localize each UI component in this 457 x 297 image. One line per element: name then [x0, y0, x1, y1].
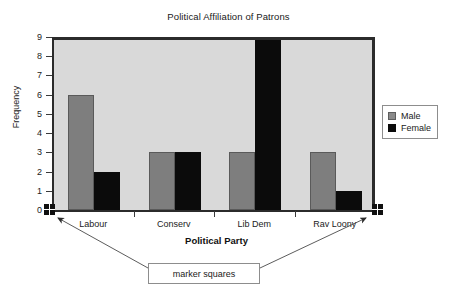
- chart-figure: Political Affiliation of Patrons Frequen…: [0, 0, 457, 297]
- x-tick: [134, 211, 135, 217]
- origin-marker-square-handle[interactable]: [44, 204, 55, 215]
- marker-square-quadrant: [378, 210, 383, 215]
- bar-labour-male: [68, 95, 94, 210]
- chart-title: Political Affiliation of Patrons: [0, 11, 457, 22]
- bar-lib-dem-male: [229, 152, 255, 210]
- bar-labour-female: [94, 172, 120, 210]
- y-tick-label: 8: [28, 52, 42, 61]
- y-tick-label: 1: [28, 186, 42, 195]
- female-swatch-icon: [388, 124, 396, 132]
- x-category-label-lib-dem: Lib Dem: [237, 219, 271, 229]
- bar-conserv-male: [149, 152, 175, 210]
- x-category-label-labour: Labour: [79, 219, 107, 229]
- marker-square-quadrant: [378, 204, 383, 209]
- y-axis-line: [52, 37, 54, 211]
- right-marker-square-handle[interactable]: [372, 204, 383, 215]
- x-category-label-rav-loony: Rav Loony: [313, 219, 356, 229]
- plot-area: [53, 37, 375, 210]
- y-tick-label: 6: [28, 90, 42, 99]
- bar-rav-loony-female: [336, 191, 362, 210]
- bar-conserv-female: [175, 152, 201, 210]
- legend-entry-female: Female: [388, 122, 431, 134]
- y-tick-label: 3: [28, 148, 42, 157]
- y-tick-label: 7: [28, 71, 42, 80]
- x-tick: [295, 211, 296, 217]
- x-category-label-conserv: Conserv: [157, 219, 191, 229]
- marker-square-quadrant: [372, 210, 377, 215]
- x-axis-title: Political Party: [0, 235, 433, 246]
- marker-square-quadrant: [50, 204, 55, 209]
- y-axis-title: Frequency: [11, 67, 21, 147]
- male-swatch-icon: [388, 112, 396, 120]
- legend: Male Female: [382, 105, 438, 139]
- x-tick: [214, 211, 215, 217]
- bar-rav-loony-male: [310, 152, 336, 210]
- annotation-text: marker squares: [173, 269, 236, 279]
- legend-label-male: Male: [401, 111, 421, 121]
- y-tick-label: 9: [28, 33, 42, 42]
- y-tick-label: 0: [28, 206, 42, 215]
- annotation-box: marker squares: [148, 263, 260, 284]
- y-tick-label: 2: [28, 167, 42, 176]
- y-tick-label: 5: [28, 109, 42, 118]
- marker-square-quadrant: [50, 210, 55, 215]
- marker-square-quadrant: [44, 204, 49, 209]
- y-tick-label: 4: [28, 129, 42, 138]
- legend-label-female: Female: [401, 123, 431, 133]
- marker-square-quadrant: [44, 210, 49, 215]
- legend-entry-male: Male: [388, 110, 431, 122]
- bar-lib-dem-female: [255, 37, 281, 210]
- marker-square-quadrant: [372, 204, 377, 209]
